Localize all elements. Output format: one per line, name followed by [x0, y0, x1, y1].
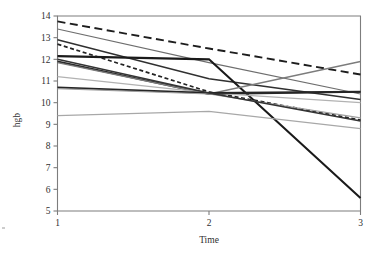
y-tick-label: 5 [46, 206, 51, 216]
y-tick-label: 13 [41, 33, 51, 43]
chart-figure: 567891011121314 123 hgb Time [0, 0, 381, 256]
x-tick-label: 3 [358, 218, 363, 228]
y-tick-label: 7 [46, 163, 51, 173]
y-tick-label: 10 [41, 98, 51, 108]
hgb-vs-time-line-chart: 567891011121314 123 hgb Time [0, 0, 381, 256]
y-tick-label: 14 [41, 11, 51, 21]
x-tick-label: 2 [207, 218, 212, 228]
y-tick-label: 9 [46, 120, 51, 130]
x-axis-title: Time [199, 235, 219, 245]
y-tick-label: 8 [46, 141, 51, 151]
y-tick-label: 6 [46, 185, 51, 195]
y-tick-label: 12 [41, 55, 51, 65]
x-tick-label: 1 [55, 218, 60, 228]
y-axis-title: hgb [12, 113, 22, 128]
y-tick-label: 11 [41, 76, 50, 86]
